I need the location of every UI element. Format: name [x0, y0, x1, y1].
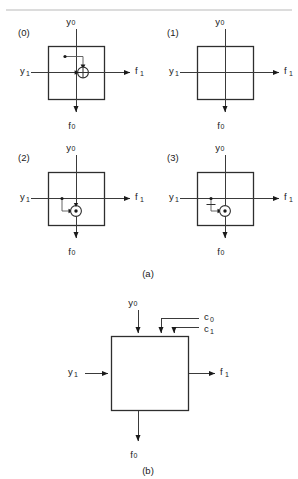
cell-0-input-vertical-label: y — [66, 16, 71, 27]
cell-0[interactable]: (0) y 0 y 1 — [18, 16, 144, 131]
cell-1-output-vertical-sub: 0 — [221, 123, 225, 130]
part-b-control-0-sub: 0 — [210, 316, 214, 323]
cell-function-diagram: (0) y 0 y 1 — [0, 0, 298, 479]
cell-1-index-label: (1) — [167, 27, 179, 38]
cell-2-index-label: (2) — [18, 152, 30, 163]
part-b-input-vertical-label: y — [128, 297, 133, 308]
cell-2-output-horizontal-label: f — [135, 191, 138, 202]
cell-2-tap-junction — [60, 197, 63, 200]
cell-2[interactable]: (2) y 0 y 1 f 1 f 0 — [18, 142, 144, 257]
cell-0-input-vertical-sub: 0 — [72, 19, 76, 26]
cell-1-input-vertical-label: y — [215, 16, 220, 27]
cell-3-index-label: (3) — [167, 152, 179, 163]
part-b-box — [112, 337, 189, 411]
cell-1[interactable]: (1) y 0 y 1 f 1 f 0 — [167, 16, 293, 131]
cell-2-input-vertical-label: y — [66, 142, 71, 153]
cell-1-output-horizontal-sub: 1 — [289, 70, 293, 77]
part-b-output-horizontal-sub: 1 — [225, 371, 229, 378]
cell-2-output-horizontal-sub: 1 — [140, 196, 144, 203]
cell-1-input-horizontal-label: y — [169, 65, 174, 76]
part-a-group: (0) y 0 y 1 — [18, 16, 293, 279]
part-b-input-horizontal-label: y — [68, 366, 73, 377]
cell-2-output-vertical-sub: 0 — [72, 249, 76, 256]
cell-2-xnor-dot — [74, 209, 77, 212]
part-b-control-1-sub: 1 — [210, 328, 214, 335]
part-a-caption: (a) — [142, 268, 154, 279]
cell-3-output-horizontal-sub: 1 — [289, 196, 293, 203]
cell-3-input-vertical-sub: 0 — [221, 145, 225, 152]
part-b-c1-wire — [174, 327, 199, 333]
cell-2-input-vertical-sub: 0 — [72, 145, 76, 152]
cell-0-index-label: (0) — [18, 27, 30, 38]
cell-0-output-horizontal-label: f — [135, 65, 138, 76]
part-b-output-vertical-sub: 0 — [134, 452, 138, 459]
cell-3-input-vertical-label: y — [215, 142, 220, 153]
cell-3-output-vertical-sub: 0 — [221, 249, 225, 256]
part-b-group[interactable]: y 0 c 0 c 1 y 1 f 1 f 0 (b) — [68, 297, 229, 476]
cell-2-input-horizontal-label: y — [20, 191, 25, 202]
cell-2-input-horizontal-sub: 1 — [26, 196, 30, 203]
cell-0-output-horizontal-sub: 1 — [140, 70, 144, 77]
cell-0-input-horizontal-sub: 1 — [26, 70, 30, 77]
part-b-control-0-label: c — [204, 311, 209, 322]
cell-3-tap-junction — [209, 197, 212, 200]
cell-1-output-horizontal-label: f — [284, 65, 287, 76]
cell-1-input-horizontal-sub: 1 — [175, 70, 179, 77]
cell-3-input-horizontal-label: y — [169, 191, 174, 202]
figure-root: (0) y 0 y 1 — [0, 0, 298, 479]
cell-3-input-horizontal-sub: 1 — [175, 196, 179, 203]
part-b-output-horizontal-label: f — [220, 366, 223, 377]
cell-3-output-horizontal-label: f — [284, 191, 287, 202]
part-b-input-vertical-sub: 0 — [134, 300, 138, 307]
cell-0-tap-junction — [63, 55, 66, 58]
cell-0-tap-wire — [65, 57, 83, 67]
part-b-input-horizontal-sub: 1 — [74, 371, 78, 378]
part-b-control-1-label: c — [204, 323, 209, 334]
cell-0-input-horizontal-label: y — [20, 65, 25, 76]
part-b-c0-wire — [161, 318, 199, 333]
cell-3-xnor-dot — [223, 209, 226, 212]
cell-3[interactable]: (3) y 0 y 1 f 1 f 0 — [167, 142, 293, 257]
cell-0-output-vertical-sub: 0 — [72, 123, 76, 130]
cell-1-input-vertical-sub: 0 — [221, 19, 225, 26]
part-b-caption: (b) — [142, 465, 154, 476]
